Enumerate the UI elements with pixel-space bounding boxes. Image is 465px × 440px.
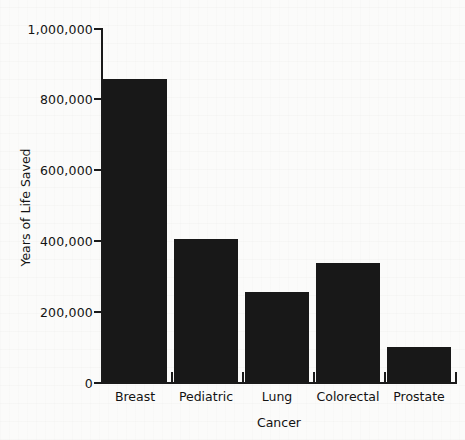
y-tick-label: 800,000 <box>40 92 93 107</box>
x-tick-mark <box>242 372 244 383</box>
x-category-label-prostate: Prostate <box>393 389 445 404</box>
y-tick-mark <box>94 169 102 171</box>
x-category-label-breast: Breast <box>115 389 155 404</box>
x-tick-mark <box>313 372 315 383</box>
y-tick-label: 200,000 <box>40 305 93 320</box>
bar-lung <box>245 292 309 382</box>
x-axis-line <box>101 382 457 384</box>
y-tick-mark <box>94 311 102 313</box>
y-tick-label: 0 <box>85 376 93 391</box>
chart-figure: 0 200,000 400,000 600,000 800,000 1,000,… <box>0 0 465 440</box>
y-tick-mark <box>94 28 102 30</box>
y-tick-mark <box>94 240 102 242</box>
x-category-label-lung: Lung <box>262 389 293 404</box>
x-tick-mark <box>171 372 173 383</box>
y-tick-mark <box>94 98 102 100</box>
y-tick-label: 400,000 <box>40 234 93 249</box>
bar-colorectal <box>316 263 380 382</box>
x-category-label-pediatric: Pediatric <box>179 389 233 404</box>
bar-breast <box>103 79 167 382</box>
bar-prostate <box>387 347 451 382</box>
y-tick-mark <box>94 382 102 384</box>
y-tick-label: 1,000,000 <box>28 22 93 37</box>
y-axis-title: Years of Life Saved <box>18 128 33 288</box>
y-tick-label: 600,000 <box>40 163 93 178</box>
x-tick-mark <box>455 372 457 383</box>
bar-pediatric <box>174 239 238 382</box>
x-category-label-colorectal: Colorectal <box>317 389 380 404</box>
x-axis-title: Cancer <box>101 415 457 430</box>
plot-area: 0 200,000 400,000 600,000 800,000 1,000,… <box>0 0 465 440</box>
x-tick-mark <box>384 372 386 383</box>
